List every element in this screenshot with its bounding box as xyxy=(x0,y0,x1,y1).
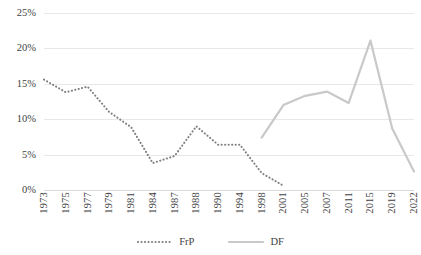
legend-item-frp[interactable]: FrP xyxy=(137,237,194,248)
series-line-frp xyxy=(44,80,283,186)
x-axis-tick-label: 2007 xyxy=(322,192,333,214)
y-axis-tick-label: 25% xyxy=(17,8,36,19)
x-axis-tick-label: 2022 xyxy=(409,192,420,214)
x-axis-tick-label: 1979 xyxy=(104,192,115,214)
legend-swatch-frp-icon xyxy=(137,238,173,246)
series-line-df xyxy=(262,41,414,172)
y-axis-tick-label: 15% xyxy=(17,79,36,90)
x-axis-tick-label: 1998 xyxy=(256,192,267,214)
plot-area xyxy=(44,13,414,190)
x-axis-tick-label: 1988 xyxy=(191,192,202,214)
series-layer xyxy=(44,13,414,190)
y-axis: 0%5%10%15%20%25% xyxy=(0,13,40,190)
line-chart: 0%5%10%15%20%25% 19731975197719791981198… xyxy=(0,0,421,255)
x-axis-tick-label: 2015 xyxy=(365,192,376,214)
x-axis-tick-label: 1990 xyxy=(213,192,224,214)
x-axis-tick-label: 2011 xyxy=(343,192,354,213)
x-axis-tick-label: 1994 xyxy=(235,192,246,214)
legend-item-df[interactable]: DF xyxy=(228,237,283,248)
y-axis-tick-label: 0% xyxy=(22,185,36,196)
legend-label: FrP xyxy=(179,237,194,248)
x-axis-tick-label: 2005 xyxy=(300,192,311,214)
y-axis-tick-label: 20% xyxy=(17,43,36,54)
x-axis-tick-label: 1984 xyxy=(148,192,159,214)
x-axis-tick-label: 1981 xyxy=(126,192,137,214)
x-axis-tick-label: 1977 xyxy=(82,192,93,214)
x-axis-tick-label: 2001 xyxy=(278,192,289,214)
x-axis-tick-label: 1975 xyxy=(61,192,72,214)
legend-label: DF xyxy=(270,237,283,248)
x-axis-tick-label: 2019 xyxy=(387,192,398,214)
gridline xyxy=(44,190,414,191)
legend-swatch-df-icon xyxy=(228,238,264,246)
chart-legend: FrPDF xyxy=(0,232,421,252)
y-axis-tick-label: 10% xyxy=(17,114,36,125)
y-axis-tick-label: 5% xyxy=(22,149,36,160)
x-axis-tick-label: 1987 xyxy=(169,192,180,214)
x-axis-tick-label: 1973 xyxy=(39,192,50,214)
